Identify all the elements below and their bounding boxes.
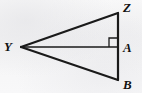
geometry-figure: Y Z A B (0, 0, 142, 93)
vertex-label-Y: Y (4, 40, 12, 53)
segment-YB (21, 47, 118, 80)
vertex-label-Z: Z (123, 1, 131, 14)
segment-YZ (21, 13, 118, 47)
geometry-drawing (0, 0, 142, 93)
vertex-label-B: B (123, 78, 132, 91)
right-angle-marker-icon (109, 38, 118, 47)
vertex-label-A: A (123, 41, 132, 54)
